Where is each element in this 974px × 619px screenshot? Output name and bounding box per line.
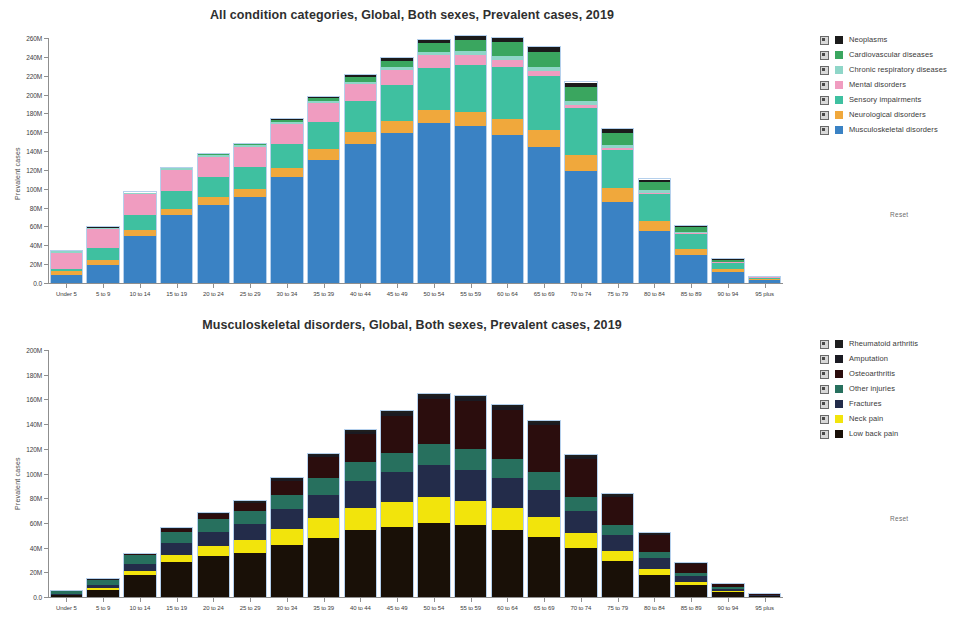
- bar-segment[interactable]: [308, 478, 340, 495]
- legend-checkbox-icon[interactable]: [820, 66, 829, 75]
- bar-segment[interactable]: [492, 42, 524, 55]
- bar-segment[interactable]: [345, 462, 377, 481]
- bar-segment[interactable]: [565, 87, 597, 101]
- bar-segment[interactable]: [418, 55, 450, 68]
- bar-segment[interactable]: [528, 130, 560, 147]
- bar-40-to-44[interactable]: [345, 75, 377, 283]
- bar-segment[interactable]: [234, 511, 266, 524]
- bar-segment[interactable]: [675, 585, 707, 597]
- bar-segment[interactable]: [492, 119, 524, 135]
- bar-segment[interactable]: [124, 555, 156, 564]
- legend-item-osteoarthritis[interactable]: Osteoarthritis: [820, 368, 970, 379]
- bar-85-to-89[interactable]: [675, 226, 707, 283]
- bar-segment[interactable]: [271, 481, 303, 495]
- bar-25-to-29[interactable]: [234, 144, 266, 283]
- bar-segment[interactable]: [234, 197, 266, 283]
- legend-checkbox-icon[interactable]: [820, 355, 829, 364]
- bar-segment[interactable]: [271, 509, 303, 529]
- bar-90-to-94[interactable]: [712, 259, 744, 283]
- bar-10-to-14[interactable]: [124, 554, 156, 597]
- bar-segment[interactable]: [308, 122, 340, 149]
- bar-segment[interactable]: [418, 465, 450, 497]
- bar-segment[interactable]: [492, 478, 524, 508]
- legend-item-cardiovascular-diseases[interactable]: Cardiovascular diseases: [820, 49, 970, 60]
- bar-segment[interactable]: [234, 503, 266, 511]
- legend-all-conditions[interactable]: NeoplasmsCardiovascular diseasesChronic …: [820, 34, 970, 139]
- bar-segment[interactable]: [161, 532, 193, 543]
- bar-segment[interactable]: [234, 524, 266, 540]
- bar-segment[interactable]: [455, 401, 487, 449]
- bar-segment[interactable]: [161, 215, 193, 283]
- bar-60-to-64[interactable]: [492, 405, 524, 597]
- bar-segment[interactable]: [271, 495, 303, 510]
- bar-segment[interactable]: [492, 459, 524, 478]
- legend-item-neurological-disorders[interactable]: Neurological disorders: [820, 109, 970, 120]
- bar-segment[interactable]: [675, 234, 707, 249]
- bar-segment[interactable]: [528, 517, 560, 537]
- bar-segment[interactable]: [345, 101, 377, 132]
- bar-segment[interactable]: [381, 70, 413, 85]
- bar-75-to-79[interactable]: [602, 494, 634, 597]
- bar-segment[interactable]: [271, 124, 303, 144]
- bar-segment[interactable]: [198, 519, 230, 531]
- bar-45-to-49[interactable]: [381, 411, 413, 597]
- bar-segment[interactable]: [418, 68, 450, 109]
- bar-segment[interactable]: [161, 555, 193, 562]
- bar-segment[interactable]: [381, 472, 413, 502]
- bar-segment[interactable]: [161, 191, 193, 209]
- bar-segment[interactable]: [418, 123, 450, 283]
- bar-segment[interactable]: [565, 533, 597, 548]
- bar-20-to-24[interactable]: [198, 513, 230, 597]
- legend-item-neck-pain[interactable]: Neck pain: [820, 413, 970, 424]
- bar-10-to-14[interactable]: [124, 192, 156, 283]
- bar-segment[interactable]: [198, 177, 230, 197]
- bar-segment[interactable]: [161, 562, 193, 597]
- bar-segment[interactable]: [602, 497, 634, 525]
- bar-65-to-69[interactable]: [528, 421, 560, 597]
- bar-segment[interactable]: [418, 43, 450, 51]
- legend-checkbox-icon[interactable]: [820, 340, 829, 349]
- legend-checkbox-icon[interactable]: [820, 51, 829, 60]
- bar-segment[interactable]: [602, 133, 634, 145]
- legend-checkbox-icon[interactable]: [820, 370, 829, 379]
- bar-segment[interactable]: [308, 457, 340, 478]
- bar-30-to-34[interactable]: [271, 478, 303, 597]
- bar-segment[interactable]: [528, 425, 560, 472]
- bar-segment[interactable]: [51, 253, 83, 269]
- bar-segment[interactable]: [492, 67, 524, 119]
- legend-item-chronic-respiratory-diseases[interactable]: Chronic respiratory diseases: [820, 64, 970, 75]
- legend-item-sensory-impairments[interactable]: Sensory impairments: [820, 94, 970, 105]
- bar-35-to-39[interactable]: [308, 454, 340, 597]
- reset-button[interactable]: Reset: [890, 211, 908, 218]
- bar-segment[interactable]: [528, 537, 560, 598]
- legend-item-neoplasms[interactable]: Neoplasms: [820, 34, 970, 45]
- bar-segment[interactable]: [565, 459, 597, 497]
- legend-checkbox-icon[interactable]: [820, 415, 829, 424]
- reset-button-secondary[interactable]: Reset: [890, 515, 908, 522]
- bar-segment[interactable]: [455, 525, 487, 597]
- bar-segment[interactable]: [381, 453, 413, 473]
- legend-checkbox-icon[interactable]: [820, 430, 829, 439]
- bar-segment[interactable]: [308, 160, 340, 283]
- legend-item-other-injuries[interactable]: Other injuries: [820, 383, 970, 394]
- bar-segment[interactable]: [528, 52, 560, 67]
- bar-segment[interactable]: [198, 197, 230, 205]
- bar-60-to-64[interactable]: [492, 38, 524, 283]
- bar-segment[interactable]: [345, 434, 377, 462]
- bar-segment[interactable]: [51, 275, 83, 283]
- bar-segment[interactable]: [234, 167, 266, 189]
- legend-checkbox-icon[interactable]: [820, 400, 829, 409]
- bar-segment[interactable]: [565, 497, 597, 511]
- bar-45-to-49[interactable]: [381, 58, 413, 283]
- bar-segment[interactable]: [271, 545, 303, 597]
- legend-checkbox-icon[interactable]: [820, 126, 829, 135]
- bar-segment[interactable]: [639, 182, 671, 190]
- bar-segment[interactable]: [271, 168, 303, 177]
- bar-65-to-69[interactable]: [528, 47, 560, 283]
- bar-25-to-29[interactable]: [234, 501, 266, 597]
- bar-segment[interactable]: [418, 399, 450, 443]
- bar-segment[interactable]: [639, 575, 671, 597]
- bar-segment[interactable]: [271, 144, 303, 169]
- bar-segment[interactable]: [492, 508, 524, 530]
- legend-musculoskeletal[interactable]: Rheumatoid arthritisAmputationOsteoarthr…: [820, 338, 970, 443]
